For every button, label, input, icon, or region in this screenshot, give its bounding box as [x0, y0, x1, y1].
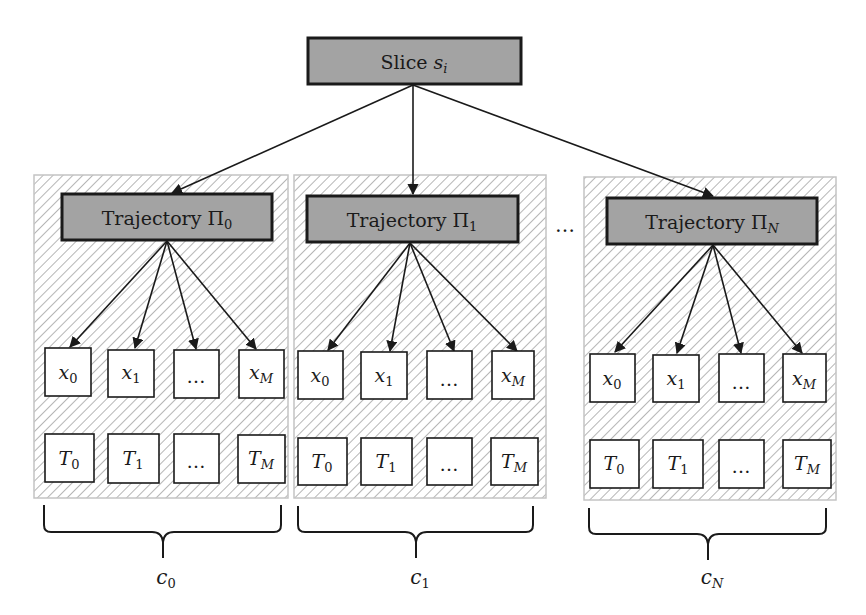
- svg-text:Trajectory Π1: Trajectory Π1: [347, 209, 478, 234]
- brace-1: [298, 506, 533, 558]
- diagram-canvas: Slice si Trajectory Π0 Trajectory Π1 Tra…: [0, 0, 866, 615]
- braces: [44, 505, 826, 560]
- brace-label-cn: cN: [701, 565, 724, 591]
- leaf-x-ellipsis: …: [440, 368, 459, 390]
- svg-text:Slice si: Slice si: [380, 51, 447, 76]
- trajectory-node-1: Trajectory Π1: [307, 196, 518, 242]
- brace-n: [589, 508, 826, 560]
- leaf-t-ellipsis: …: [187, 450, 206, 472]
- brace-label-c1: c1: [410, 565, 429, 591]
- trajectory-node-n: Trajectory ΠN: [607, 198, 817, 244]
- brace-label-c0: c0: [156, 565, 175, 591]
- leaf-t-ellipsis: …: [732, 455, 751, 477]
- leaf-x-ellipsis: …: [732, 371, 751, 393]
- slice-subscript: i: [443, 61, 447, 76]
- svg-text:Trajectory Π0: Trajectory Π0: [102, 207, 233, 232]
- trajectory-node-0: Trajectory Π0: [62, 194, 272, 240]
- brace-0: [44, 505, 281, 558]
- slice-label: Slice: [380, 51, 427, 73]
- leaf-t-ellipsis: …: [440, 453, 459, 475]
- panel-ellipsis: …: [555, 213, 575, 237]
- slice-symbol: s: [434, 51, 444, 73]
- svg-text:Trajectory ΠN: Trajectory ΠN: [645, 211, 779, 236]
- leaf-x-ellipsis: …: [187, 365, 206, 387]
- slice-node: Slice si: [308, 38, 521, 84]
